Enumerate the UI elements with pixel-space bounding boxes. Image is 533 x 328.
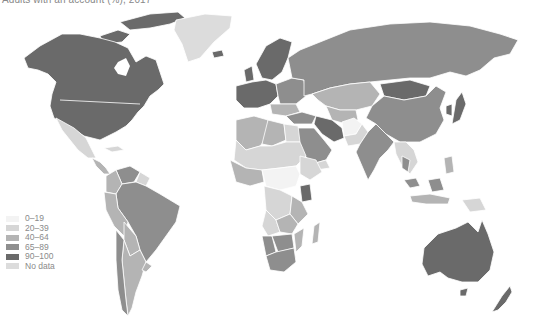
legend-label: 0–19 [25,214,44,223]
region-borneo [428,178,444,192]
region-north-america [24,34,164,140]
legend-label: 40–64 [25,233,49,242]
legend-label: No data [25,262,55,271]
legend-swatch [6,235,19,241]
legend-label: 90–100 [25,252,53,261]
world-choropleth-map [0,0,533,328]
region-korea [446,104,452,116]
map-legend: 0–19 20–39 40–64 65–89 90–100 No data [6,214,55,271]
region-japan [452,92,466,124]
region-kenya [300,184,312,202]
region-philippines [444,156,454,174]
legend-swatch [6,244,19,250]
region-new-zealand [492,286,512,312]
region-central-america [92,158,110,174]
region-iceland [212,50,224,58]
region-central-africa [262,166,300,190]
region-malaysia [404,178,420,188]
region-indonesia [410,194,450,204]
region-tasmania [460,288,468,296]
region-eastern-europe [276,78,306,104]
region-papua [462,198,486,212]
legend-swatch [6,216,19,222]
region-scandinavia [256,38,292,80]
legend-swatch [6,263,19,269]
region-uk [244,66,254,82]
legend-item: No data [6,262,55,272]
region-australia [422,220,494,282]
region-madagascar [312,222,320,244]
region-mozambique [294,228,304,252]
legend-swatch [6,225,19,231]
region-caribbean [104,146,124,152]
legend-swatch [6,254,19,260]
region-egypt [284,124,300,142]
